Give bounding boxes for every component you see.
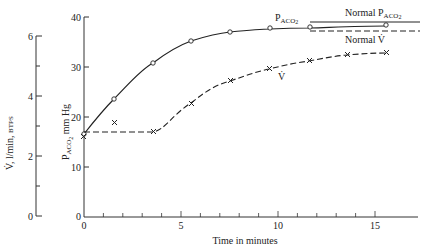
v-line [84,53,386,132]
secondary-y-ticks: 6 4 2 0 [28,31,33,222]
tick-label: 15 [370,220,380,231]
x-minor-ticks [103,211,375,217]
tick-label: 30 [71,62,81,73]
tick-label: 40 [71,12,81,23]
v-curve-label: V̇ [278,71,286,82]
normal-pco2-label: Normal PACO2 [345,7,401,20]
pco2-line [84,26,386,134]
x-tick-labels: 0 5 10 15 [82,220,381,231]
secondary-y-axis [36,36,42,216]
main-axes [84,17,418,217]
x-axis-label: Time in minutes [212,235,277,246]
normal-v-label: Normal V̇ [345,34,386,45]
tick-label: 10 [71,162,81,173]
tick-label: 0 [76,211,81,222]
tick-label: 6 [28,31,33,42]
tick-label: 2 [28,151,33,162]
chart: 6 4 2 0 V̇, l/min, BTPS 40 30 20 10 0 [0,0,427,251]
tick-label: 0 [28,211,33,222]
secondary-y-axis-label: V̇, l/min, BTPS [4,116,15,170]
tick-label: 4 [28,91,33,102]
tick-label: 5 [179,220,184,231]
v-markers [81,50,389,139]
pco2-curve-label: PACO2 [275,12,298,25]
tick-label: 20 [71,112,81,123]
tick-label: 0 [82,220,87,231]
y-tick-labels: 40 30 20 10 0 [71,12,81,222]
tick-label: 10 [273,220,283,231]
